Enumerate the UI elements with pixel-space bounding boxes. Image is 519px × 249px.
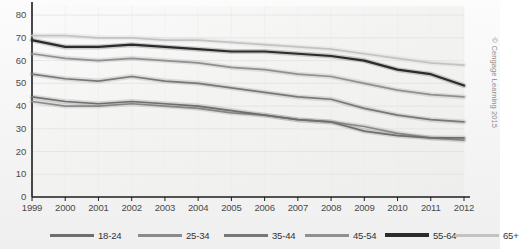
legend-swatch-icon xyxy=(224,234,268,237)
chart-legend: 18-2425-3435-4445-5455-6465+ xyxy=(0,226,500,246)
legend-swatch-icon xyxy=(138,234,182,237)
x-axis-tick-label: 2009 xyxy=(347,202,381,213)
x-axis-tick-label: 2005 xyxy=(214,202,248,213)
y-axis-tick-label: 10 xyxy=(2,168,26,179)
x-axis-tick-label: 2011 xyxy=(414,202,448,213)
legend-swatch-icon xyxy=(50,234,94,237)
x-axis-tick-label: 2003 xyxy=(148,202,182,213)
copyright-credit: © Cengage Learning 2015 xyxy=(490,38,499,128)
y-axis-tick-label: 40 xyxy=(2,100,26,111)
legend-item-25-34[interactable]: 25-34 xyxy=(138,226,209,244)
legend-item-65+[interactable]: 65+ xyxy=(455,226,519,244)
x-axis-tick-label: 2001 xyxy=(81,202,115,213)
legend-label: 55-64 xyxy=(433,230,456,241)
legend-item-35-44[interactable]: 35-44 xyxy=(224,226,295,244)
x-axis-tick-label: 2000 xyxy=(48,202,82,213)
y-axis-tick-label: 30 xyxy=(2,123,26,134)
x-axis-tick-label: 2002 xyxy=(115,202,149,213)
x-axis-tick-label: 2004 xyxy=(181,202,215,213)
legend-label: 45-54 xyxy=(353,230,376,241)
x-axis-tick-label: 2010 xyxy=(381,202,415,213)
x-axis-tick-label: 2008 xyxy=(314,202,348,213)
y-axis-tick-label: 0 xyxy=(2,191,26,202)
legend-label: 35-44 xyxy=(272,230,295,241)
legend-label: 18-24 xyxy=(98,230,121,241)
y-axis-tick-label: 60 xyxy=(2,55,26,66)
legend-item-18-24[interactable]: 18-24 xyxy=(50,226,121,244)
legend-swatch-icon xyxy=(305,234,349,237)
y-axis-tick-label: 50 xyxy=(2,77,26,88)
y-axis-tick-label: 70 xyxy=(2,32,26,43)
x-axis-tick-label: 2006 xyxy=(248,202,282,213)
y-axis-tick-label: 20 xyxy=(2,146,26,157)
y-axis-tick-label: 80 xyxy=(2,9,26,20)
x-axis-tick-label: 2012 xyxy=(447,202,481,213)
legend-label: 65+ xyxy=(503,230,519,241)
legend-swatch-icon xyxy=(455,234,499,237)
legend-item-45-54[interactable]: 45-54 xyxy=(305,226,376,244)
x-axis-tick-label: 2007 xyxy=(281,202,315,213)
x-axis-tick-label: 1999 xyxy=(15,202,49,213)
legend-item-55-64[interactable]: 55-64 xyxy=(385,226,456,244)
legend-swatch-icon xyxy=(385,233,429,236)
legend-label: 25-34 xyxy=(186,230,209,241)
